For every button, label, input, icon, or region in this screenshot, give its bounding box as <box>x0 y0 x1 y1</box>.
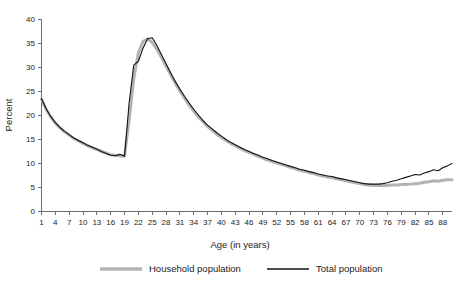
x-axis-tick-label: 61 <box>314 218 323 227</box>
y-axis-tick-label: 25 <box>26 87 35 96</box>
x-axis-tick-label: 85 <box>424 218 433 227</box>
y-axis-tick-label: 30 <box>26 63 35 72</box>
x-axis-tick-label: 16 <box>106 218 115 227</box>
x-axis-tick-label: 46 <box>245 218 254 227</box>
y-axis-tick-label: 0 <box>31 207 36 216</box>
x-axis-tick-label: 1 <box>39 218 44 227</box>
x-axis-tick-label: 40 <box>217 218 226 227</box>
legend-label: Total population <box>316 263 383 274</box>
x-axis-tick-label: 31 <box>175 218 184 227</box>
x-axis-tick-label: 49 <box>258 218 267 227</box>
x-axis-tick-label: 34 <box>189 218 198 227</box>
y-axis-tick-label: 35 <box>26 39 35 48</box>
x-axis-tick-label: 64 <box>328 218 337 227</box>
x-axis-tick-label: 28 <box>162 218 171 227</box>
x-axis-tick-label: 88 <box>438 218 447 227</box>
x-axis-tick-label: 10 <box>79 218 88 227</box>
x-axis-tick-label: 70 <box>355 218 364 227</box>
x-axis-tick-label: 52 <box>272 218 281 227</box>
x-axis-tick-label: 58 <box>300 218 309 227</box>
x-axis-tick-label: 37 <box>203 218 212 227</box>
y-axis-title-label: Percent <box>3 98 14 131</box>
x-axis-tick-label: 25 <box>148 218 157 227</box>
y-axis-tick-label: 20 <box>26 111 35 120</box>
x-axis-tick-label: 82 <box>411 218 420 227</box>
y-axis-title: Percent <box>3 98 14 131</box>
x-axis-tick-label: 43 <box>231 218 240 227</box>
x-axis-tick-label: 4 <box>53 218 58 227</box>
x-axis-tick-label: 22 <box>134 218 143 227</box>
x-axis-tick-label: 7 <box>67 218 72 227</box>
x-axis-tick-label: 13 <box>92 218 101 227</box>
y-axis-tick-label: 5 <box>31 183 36 192</box>
legend-label: Household population <box>149 263 241 274</box>
x-axis-title: Age (in years) <box>210 239 269 250</box>
x-axis-tick-label: 67 <box>341 218 350 227</box>
x-axis-tick-label: 73 <box>369 218 378 227</box>
x-axis-tick-label: 19 <box>120 218 129 227</box>
percent-by-age-line-chart: 0510152025303540 14710131619222528313437… <box>0 0 459 286</box>
x-axis-title-label: Age (in years) <box>210 239 269 250</box>
x-axis-tick-label: 79 <box>397 218 406 227</box>
y-axis-tick-label: 15 <box>26 135 35 144</box>
x-axis-tick-label: 55 <box>286 218 295 227</box>
chart-container: 0510152025303540 14710131619222528313437… <box>0 0 459 286</box>
x-axis-tick-label: 76 <box>383 218 392 227</box>
y-axis-tick-label: 10 <box>26 159 35 168</box>
y-axis-tick-label: 40 <box>26 15 35 24</box>
